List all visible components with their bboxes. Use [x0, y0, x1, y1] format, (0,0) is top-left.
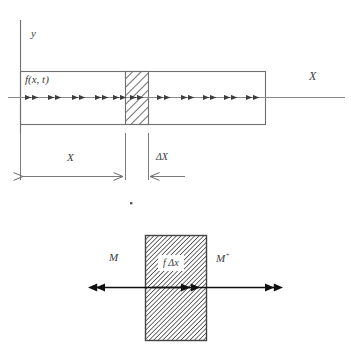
load-function-label: f(x, t) [25, 74, 49, 85]
moment-left-arrow-second-head [88, 284, 97, 292]
dimension-x-label: X [67, 152, 74, 163]
moment-right-label: M+ [216, 252, 230, 264]
moment-right-label-superscript: + [225, 251, 230, 259]
dimension-delta-x-label: ΔX [156, 152, 168, 162]
y-axis-label: y [31, 28, 36, 39]
moment-right-arrow-second-head [274, 284, 283, 292]
mechanics-diagram [0, 0, 351, 348]
moment-right-label-base: M [216, 252, 225, 264]
x-axis-label: X [309, 70, 316, 82]
moment-left-label: M [109, 252, 118, 263]
stray-dot [130, 202, 132, 204]
internal-force-label: f Δx [158, 255, 184, 271]
top-diagram [8, 20, 345, 134]
